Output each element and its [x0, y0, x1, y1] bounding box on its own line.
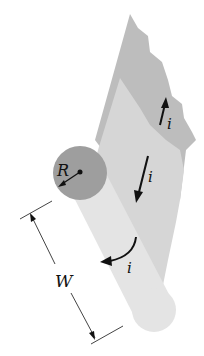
- radius-label: R: [56, 161, 69, 180]
- current-label-middle: i: [148, 168, 153, 186]
- cylinder-current-sheet-figure: R i i i W: [0, 0, 204, 356]
- current-label-upper: i: [167, 115, 172, 133]
- width-dimension-line-top: [31, 215, 55, 264]
- width-arrowhead-top: [30, 213, 36, 222]
- width-label: W: [55, 271, 74, 291]
- width-extension-top: [20, 201, 52, 219]
- width-extension-bottom: [91, 326, 123, 344]
- current-label-cylinder: i: [127, 259, 132, 277]
- width-dimension-line-bottom: [71, 293, 95, 338]
- diagram-canvas: R i i i W: [0, 0, 204, 356]
- width-arrowhead-bottom: [89, 331, 95, 340]
- cylinder-far-end: [132, 288, 176, 332]
